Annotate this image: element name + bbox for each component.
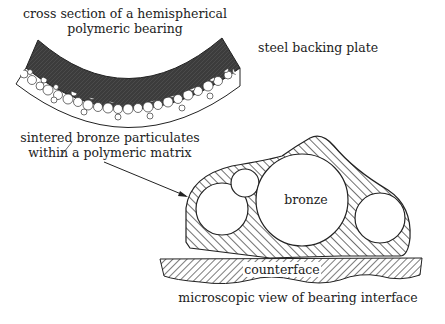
steel-backing-label: steel backing plate xyxy=(258,40,378,55)
microscopic-view-caption: microscopic view of bearing interface xyxy=(178,290,417,305)
sintered-label-line1: sintered bronze particulates xyxy=(20,130,200,145)
title-label-line1: cross section of a hemispherical xyxy=(23,6,227,21)
title-label-line2: polymeric bearing xyxy=(67,21,183,36)
bronze-particle-right xyxy=(355,193,405,243)
counterface-label: counterface xyxy=(244,262,320,277)
sintered-label-line2: within a polymeric matrix xyxy=(28,145,191,160)
pointer-arrow xyxy=(104,162,188,197)
bearing-diagram: cross section of a hemispherical polymer… xyxy=(0,0,445,324)
bronze-label: bronze xyxy=(284,192,328,207)
bronze-particle-small xyxy=(231,169,259,197)
